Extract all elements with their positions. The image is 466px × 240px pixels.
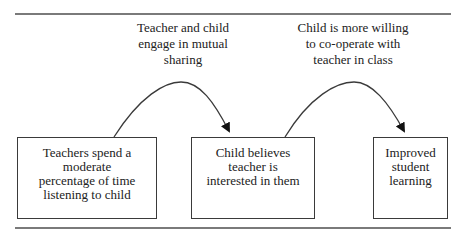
node-teachers-listening: Teachers spend a moderate percentage of …: [17, 137, 157, 219]
edge-label-line: engage in mutual: [118, 36, 248, 52]
edge-label-cooperate: Child is more willing to co-operate with…: [288, 20, 418, 68]
node-child-believes: Child believes teacher is interested in …: [191, 137, 315, 219]
arrow-n2-to-n3: [285, 82, 404, 137]
edge-label-line: to co-operate with: [288, 36, 418, 52]
node-improved-learning: Improved student learning: [373, 137, 448, 219]
edge-label-mutual-sharing: Teacher and child engage in mutual shari…: [118, 20, 248, 68]
node-text-line: Teachers spend a: [18, 146, 156, 160]
node-text-line: interested in them: [192, 174, 314, 188]
arrow-n1-to-n2: [114, 82, 229, 137]
edge-label-line: sharing: [118, 52, 248, 68]
node-text-line: moderate: [18, 160, 156, 174]
node-text-line: listening to child: [18, 188, 156, 202]
node-text-line: Improved: [374, 146, 447, 160]
edge-label-line: teacher in class: [288, 52, 418, 68]
node-text-line: Child believes: [192, 146, 314, 160]
node-text-line: student: [374, 160, 447, 174]
edge-label-line: Teacher and child: [118, 20, 248, 36]
node-text-line: teacher is: [192, 160, 314, 174]
node-text-line: percentage of time: [18, 174, 156, 188]
node-text-line: learning: [374, 174, 447, 188]
edge-label-line: Child is more willing: [288, 20, 418, 36]
